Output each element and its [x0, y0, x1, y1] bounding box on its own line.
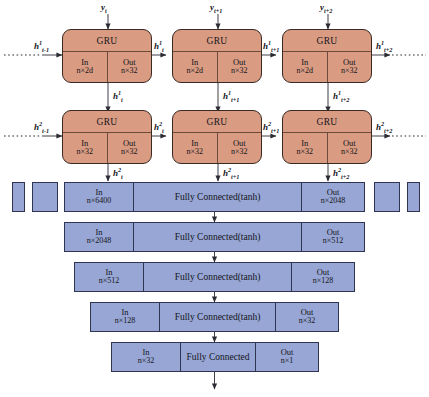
gru-cell: GRU In n×2d Out n×32 [172, 29, 262, 83]
fc-out-dim: n×1 [281, 357, 294, 366]
gru-body: In n×2d Out n×32 [283, 52, 371, 82]
fc-stub-block [407, 182, 420, 212]
fully-connected-layer: In n×32 Fully Connected Out n×1 [111, 342, 319, 372]
gru-cell: GRU In n×2d Out n×32 [282, 29, 372, 83]
fc-name: Fully Connected(tanh) [134, 183, 301, 211]
gru-out-dim: n×32 [121, 67, 138, 76]
fc-stub-block [374, 182, 400, 212]
gru-title: GRU [173, 30, 261, 52]
fc-input-cell: In n×2048 [65, 223, 134, 251]
gru-in-cell: In n×32 [283, 133, 328, 163]
gru-title: GRU [173, 111, 261, 133]
gru-body: In n×32 Out n×32 [63, 133, 151, 163]
fc-name: Fully Connected [181, 343, 255, 371]
fc-name: Fully Connected(tanh) [160, 303, 275, 331]
fc-in-dim: n×6400 [87, 197, 112, 206]
gru-in-dim: n×32 [296, 148, 313, 157]
state-label-h1-t: h1t [154, 40, 164, 53]
input-label-y-t: yt [101, 3, 107, 14]
gru-body: In n×32 Out n×32 [283, 133, 371, 163]
gru-out-cell: Out n×32 [218, 133, 262, 163]
fc-out-dim: n×2048 [321, 197, 346, 206]
gru-out-cell: Out n×32 [108, 52, 152, 82]
gru-out-dim: n×32 [231, 67, 248, 76]
fc-output-cell: Out n×2048 [301, 183, 364, 211]
gru-in-dim: n×32 [76, 148, 93, 157]
gru-body: In n×2d Out n×32 [63, 52, 151, 82]
gru-cell: GRU In n×32 Out n×32 [62, 110, 152, 164]
state-label-h2-t: h2t [154, 121, 164, 134]
gru-in-cell: In n×2d [63, 52, 108, 82]
fc-in-dim: n×32 [138, 357, 155, 366]
fc-name: Fully Connected(tanh) [134, 223, 301, 251]
gru-title: GRU [63, 111, 151, 133]
gru-body: In n×2d Out n×32 [173, 52, 261, 82]
state-label-h2-t1-down: h2t+1 [223, 167, 239, 180]
fc-out-dim: n×32 [299, 317, 316, 326]
architecture-diagram: GRU In n×2d Out n×32 GRU In n×2d Out n×3… [0, 0, 429, 397]
fc-in-dim: n×512 [99, 277, 120, 286]
fc-out-dim: n×128 [313, 277, 334, 286]
gru-cell: GRU In n×32 Out n×32 [282, 110, 372, 164]
fc-stub-block [12, 182, 25, 212]
input-label-y-t1: yt+1 [210, 3, 222, 14]
state-label-h1-tm1: h1t-1 [34, 40, 49, 53]
fully-connected-layer: In n×2048 Fully Connected(tanh) Out n×51… [64, 222, 365, 252]
gru-out-dim: n×32 [341, 148, 358, 157]
state-label-h2-t-down: h2t [113, 167, 123, 180]
gru-out-dim: n×32 [121, 148, 138, 157]
state-label-h1-t2-down: h1t+2 [333, 90, 349, 103]
gru-title: GRU [283, 111, 371, 133]
gru-in-cell: In n×2d [283, 52, 328, 82]
fully-connected-layer: In n×6400 Fully Connected(tanh) Out n×20… [64, 182, 365, 212]
gru-in-dim: n×2d [186, 67, 203, 76]
gru-in-dim: n×32 [186, 148, 203, 157]
gru-in-dim: n×2d [76, 67, 93, 76]
input-label-y-t2: yt+2 [320, 3, 332, 14]
fc-in-dim: n×128 [115, 317, 136, 326]
gru-cell: GRU In n×2d Out n×32 [62, 29, 152, 83]
fc-output-cell: Out n×128 [291, 263, 354, 291]
gru-out-cell: Out n×32 [108, 133, 152, 163]
fully-connected-layer: In n×128 Fully Connected(tanh) Out n×32 [90, 302, 339, 332]
fc-input-cell: In n×512 [75, 263, 144, 291]
gru-title: GRU [63, 30, 151, 52]
state-label-h2-t2-down: h2t+2 [333, 167, 349, 180]
gru-in-cell: In n×32 [63, 133, 108, 163]
gru-title: GRU [283, 30, 371, 52]
fc-in-dim: n×2048 [87, 237, 112, 246]
state-label-h1-t1-down: h1t+1 [223, 90, 239, 103]
gru-out-cell: Out n×32 [328, 133, 372, 163]
state-label-h1-t-down: h1t [113, 90, 123, 103]
fully-connected-layer: In n×512 Fully Connected(tanh) Out n×128 [74, 262, 355, 292]
gru-out-dim: n×32 [231, 148, 248, 157]
state-label-h1-t1: h1t+1 [263, 40, 279, 53]
gru-in-cell: In n×32 [173, 133, 218, 163]
fc-input-cell: In n×32 [112, 343, 181, 371]
fc-output-cell: Out n×1 [255, 343, 318, 371]
state-label-h2-t1: h2t+1 [263, 121, 279, 134]
gru-out-cell: Out n×32 [218, 52, 262, 82]
gru-in-dim: n×2d [296, 67, 313, 76]
fc-input-cell: In n×6400 [65, 183, 134, 211]
state-label-h2-t2: h2t+2 [376, 121, 392, 134]
fc-input-cell: In n×128 [91, 303, 160, 331]
fc-out-dim: n×512 [323, 237, 344, 246]
fc-output-cell: Out n×512 [301, 223, 364, 251]
fc-name: Fully Connected(tanh) [144, 263, 291, 291]
state-label-h2-tm1: h2t-1 [34, 121, 49, 134]
fc-stub-block [32, 182, 58, 212]
gru-out-dim: n×32 [341, 67, 358, 76]
gru-in-cell: In n×2d [173, 52, 218, 82]
gru-body: In n×32 Out n×32 [173, 133, 261, 163]
gru-cell: GRU In n×32 Out n×32 [172, 110, 262, 164]
gru-out-cell: Out n×32 [328, 52, 372, 82]
state-label-h1-t2: h1t+2 [376, 40, 392, 53]
fc-output-cell: Out n×32 [275, 303, 338, 331]
